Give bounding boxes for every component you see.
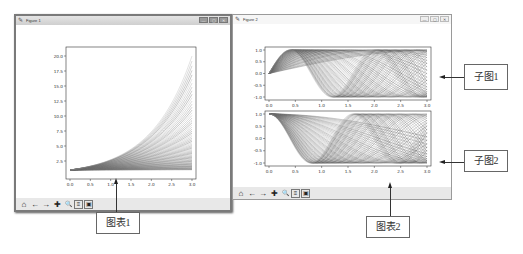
svg-text:2.5: 2.5 (397, 103, 404, 108)
svg-text:10.0: 10.0 (54, 114, 64, 119)
svg-text:1.5: 1.5 (345, 103, 352, 108)
matplotlib-icon: ✎ (18, 17, 23, 24)
callout-arrow (116, 182, 117, 212)
svg-text:20.0: 20.0 (54, 54, 64, 59)
callout-arrowhead (439, 160, 445, 164)
home-icon[interactable]: ⌂ (19, 199, 29, 210)
svg-text:3.0: 3.0 (424, 103, 431, 108)
svg-text:3.0: 3.0 (189, 182, 196, 187)
close-button[interactable]: ✕ (219, 17, 228, 23)
back-arrow-icon[interactable]: ← (247, 188, 257, 199)
svg-text:1.0: 1.0 (255, 48, 262, 53)
pan-icon[interactable]: ✚ (269, 188, 279, 199)
save-icon[interactable]: ▣ (84, 200, 93, 209)
figure-1-titlebar[interactable]: ✎ Figure 1 — ▢ ✕ (16, 16, 230, 25)
callout-arrowhead (114, 178, 118, 184)
callout-arrowhead (439, 75, 445, 79)
callout-subplot-1: 子图1 (464, 64, 508, 90)
maximize-button[interactable]: ▢ (209, 17, 218, 23)
minimize-button[interactable]: — (199, 17, 208, 23)
callout-subplot-2: 子图2 (464, 150, 508, 172)
window-title: Figure 2 (243, 17, 258, 22)
forward-arrow-icon[interactable]: → (41, 199, 51, 210)
home-icon[interactable]: ⌂ (236, 188, 246, 199)
svg-text:3.0: 3.0 (424, 169, 431, 174)
save-icon[interactable]: ▣ (301, 189, 310, 198)
zoom-icon[interactable]: 🔍 (63, 199, 73, 210)
svg-text:5.0: 5.0 (56, 144, 63, 149)
svg-text:-0.5: -0.5 (254, 83, 263, 88)
svg-text:-1.0: -1.0 (254, 161, 263, 166)
svg-text:0.5: 0.5 (292, 169, 299, 174)
svg-text:0.5: 0.5 (255, 124, 262, 129)
figure-1-window: ✎ Figure 1 — ▢ ✕ 0.00.51.01.52.02.53.02.… (14, 14, 232, 212)
svg-text:2.5: 2.5 (168, 182, 175, 187)
navigation-toolbar: ⌂ ← → ✚ 🔍 ≡ ▣ (16, 198, 230, 210)
svg-text:0.0: 0.0 (67, 182, 74, 187)
svg-text:0.0: 0.0 (255, 136, 262, 141)
svg-text:-1.0: -1.0 (254, 95, 263, 100)
svg-text:2.5: 2.5 (397, 169, 404, 174)
callout-chart-2: 图表2 (366, 216, 410, 238)
svg-text:12.5: 12.5 (54, 99, 64, 104)
minimize-button[interactable]: — (420, 16, 429, 22)
svg-text:1.5: 1.5 (345, 169, 352, 174)
svg-text:2.0: 2.0 (148, 182, 155, 187)
svg-text:7.5: 7.5 (56, 129, 63, 134)
callout-chart-1: 图表1 (96, 212, 140, 234)
svg-text:1.0: 1.0 (255, 112, 262, 117)
subplots-icon[interactable]: ≡ (74, 200, 83, 209)
svg-text:2.0: 2.0 (371, 103, 378, 108)
close-button[interactable]: ✕ (440, 16, 449, 22)
svg-text:0.5: 0.5 (255, 59, 262, 64)
matplotlib-icon: ✎ (235, 16, 240, 23)
subplots-icon[interactable]: ≡ (291, 189, 300, 198)
zoom-icon[interactable]: 🔍 (280, 188, 290, 199)
svg-text:0.5: 0.5 (292, 103, 299, 108)
forward-arrow-icon[interactable]: → (258, 188, 268, 199)
svg-text:15.0: 15.0 (54, 84, 64, 89)
svg-text:17.5: 17.5 (54, 69, 64, 74)
svg-text:-0.5: -0.5 (254, 148, 263, 153)
chart-figure-2: 0.00.51.01.52.02.53.0-1.0-0.50.00.51.00.… (233, 24, 451, 189)
callout-arrow (444, 162, 464, 163)
chart-figure-1: 0.00.51.01.52.02.53.02.55.07.510.012.515… (16, 25, 230, 200)
pan-icon[interactable]: ✚ (52, 199, 62, 210)
callout-arrowhead (388, 182, 392, 188)
svg-text:0.0: 0.0 (266, 169, 273, 174)
back-arrow-icon[interactable]: ← (30, 199, 40, 210)
window-title: Figure 1 (26, 18, 41, 23)
callout-arrow (390, 186, 391, 216)
svg-text:0.0: 0.0 (266, 103, 273, 108)
svg-text:1.5: 1.5 (128, 182, 135, 187)
window-controls: — ▢ ✕ (420, 16, 449, 22)
callout-arrow (444, 77, 464, 78)
figure-2-titlebar[interactable]: ✎ Figure 2 — ▢ ✕ (233, 15, 451, 24)
navigation-toolbar: ⌂ ← → ✚ 🔍 ≡ ▣ (233, 187, 451, 199)
svg-text:0.0: 0.0 (255, 71, 262, 76)
svg-text:1.0: 1.0 (318, 103, 325, 108)
svg-text:2.0: 2.0 (371, 169, 378, 174)
svg-text:1.0: 1.0 (318, 169, 325, 174)
figure-2-window: ✎ Figure 2 — ▢ ✕ 0.00.51.01.52.02.53.0-1… (232, 14, 452, 200)
window-controls: — ▢ ✕ (199, 17, 228, 23)
svg-text:0.5: 0.5 (87, 182, 94, 187)
maximize-button[interactable]: ▢ (430, 16, 439, 22)
svg-text:2.5: 2.5 (56, 159, 63, 164)
